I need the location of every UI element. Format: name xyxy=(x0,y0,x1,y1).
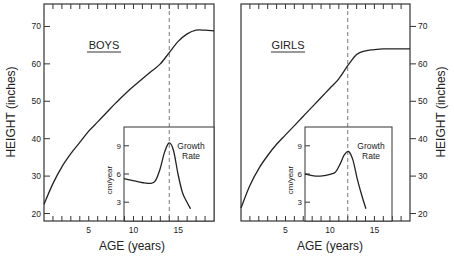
growth-charts: 51015203040506070369 5101520304050607036… xyxy=(0,0,454,258)
x-tick-label: 15 xyxy=(173,225,183,235)
x-tick-label: 15 xyxy=(370,225,380,235)
y-tick-label: 20 xyxy=(418,209,428,219)
inset-y-tick-label: 6 xyxy=(117,170,122,179)
inset-title-right-2: Rate xyxy=(362,151,380,161)
y-tick-label: 30 xyxy=(418,171,428,181)
y-axis-label-left: HEIGHT (inches) xyxy=(4,66,18,157)
y-tick-label: 40 xyxy=(32,134,42,144)
inset-y-tick-label: 6 xyxy=(298,170,303,179)
inset-ylabel-left: cm/year xyxy=(105,165,114,194)
y-tick-label: 30 xyxy=(32,171,42,181)
inset-title-right-1: Growth xyxy=(357,141,385,151)
y-tick-label: 70 xyxy=(418,21,428,31)
x-axis-label-right: AGE (years) xyxy=(297,239,363,253)
boys-title: BOYS xyxy=(89,39,120,51)
y-tick-label: 50 xyxy=(418,96,428,106)
y-tick-label: 70 xyxy=(32,21,42,31)
x-tick-label: 5 xyxy=(283,225,288,235)
inset-y-tick-label: 9 xyxy=(117,142,122,151)
y-axis-label-right: HEIGHT (inches) xyxy=(434,66,448,157)
inset-title-left-1: Growth xyxy=(177,141,205,151)
x-tick-label: 10 xyxy=(325,225,335,235)
x-tick-label: 5 xyxy=(86,225,91,235)
inset-ylabel-right: cm/year xyxy=(286,165,295,194)
y-tick-label: 40 xyxy=(418,134,428,144)
inset-y-tick-label: 9 xyxy=(298,142,303,151)
inset-y-tick-label: 3 xyxy=(298,198,303,207)
inset-title-left-2: Rate xyxy=(182,151,200,161)
boys-chart: 51015203040506070369 xyxy=(32,4,214,235)
x-tick-label: 10 xyxy=(129,225,139,235)
y-tick-label: 20 xyxy=(32,209,42,219)
inset-y-tick-label: 3 xyxy=(117,198,122,207)
y-tick-label: 60 xyxy=(418,59,428,69)
girls-title: GIRLS xyxy=(271,39,304,51)
x-axis-label-left: AGE (years) xyxy=(99,239,165,253)
y-tick-label: 50 xyxy=(32,96,42,106)
y-tick-label: 60 xyxy=(32,59,42,69)
girls-chart: 51015203040506070369 xyxy=(241,4,428,235)
